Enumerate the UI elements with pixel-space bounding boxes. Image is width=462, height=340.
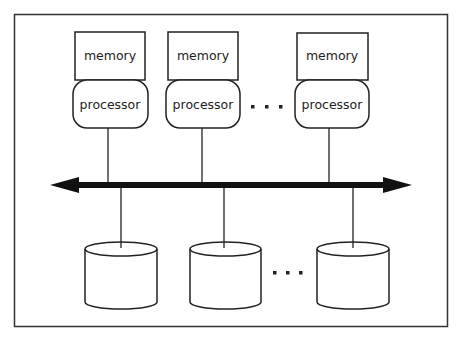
memory-label: memory (177, 48, 230, 63)
interconnect-bus (50, 177, 412, 193)
compute-node-2: memory processor (166, 32, 240, 185)
memory-label: memory (84, 48, 137, 63)
bus-bar (76, 182, 386, 188)
processor-ellipsis (251, 105, 283, 109)
processor-label: processor (80, 97, 142, 112)
arrow-right-icon (383, 177, 412, 193)
compute-node-3: memory processor (295, 33, 369, 185)
processor-label: processor (173, 97, 235, 112)
disk-icon (85, 242, 157, 309)
compute-node-1: memory processor (73, 32, 148, 185)
disk-icon (317, 242, 389, 309)
processor-label: processor (302, 97, 364, 112)
memory-label: memory (306, 48, 359, 63)
architecture-diagram: memory processor memory processor memory… (0, 0, 462, 340)
disk-ellipsis (273, 271, 303, 275)
arrow-left-icon (50, 177, 79, 193)
disk-icon (190, 242, 261, 309)
